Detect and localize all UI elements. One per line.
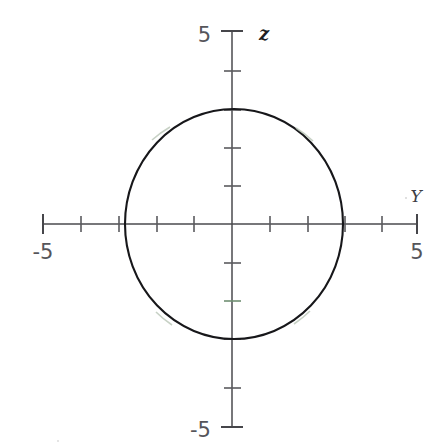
figure-canvas: 5 -5 -5 5 z Y (0, 0, 446, 448)
plot-svg: 5 -5 -5 5 z Y (0, 0, 446, 448)
z-axis-name-label: z (258, 23, 270, 44)
z-axis-min-label: -5 (190, 418, 211, 442)
scan-speck (405, 197, 407, 199)
y-axis-min-label: -5 (33, 240, 54, 264)
scan-speck (57, 440, 59, 442)
y-axis-max-label: 5 (410, 240, 423, 264)
y-axis-name-label: Y (410, 186, 423, 206)
z-axis-max-label: 5 (198, 23, 211, 47)
